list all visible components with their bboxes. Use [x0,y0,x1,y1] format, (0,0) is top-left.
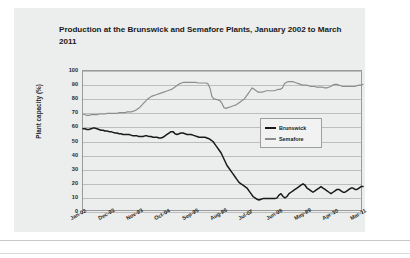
page-divider [0,240,410,241]
legend-item: Semafore [265,133,318,144]
y-axis-tick-label: 80 [56,95,78,101]
legend-swatch-icon [265,138,276,140]
legend-label: Brunswick [279,125,306,131]
legend-label: Semafore [279,136,304,142]
y-axis-tick-label: 40 [56,152,78,158]
y-axis-tick-label: 70 [56,109,78,115]
y-axis-tick-label: 100 [56,67,78,73]
x-axis-tick-labels: Jan-02Dec-02Nov-03Oct-04Sep-05Aug-06Jul-… [82,216,382,240]
y-axis-tick-label: 50 [56,138,78,144]
legend-item: Brunswick [265,122,318,133]
series-line-semafore [83,82,363,116]
y-axis-tick-label: 90 [56,81,78,87]
y-axis-tick-label: 30 [56,166,78,172]
y-axis-tick-label: 10 [56,194,78,200]
chart-panel: Production at the Brunswick and Semafore… [14,8,365,232]
y-axis-tick-label: 20 [56,180,78,186]
chart-title: Production at the Brunswick and Semafore… [59,24,349,47]
chart-legend: BrunswickSemafore [260,118,322,148]
y-axis-tick-labels: 0102030405060708090100 [54,70,78,211]
legend-swatch-icon [265,127,276,129]
page-divider-secondary [0,253,410,254]
y-axis-title: Plant capacity (%) [35,64,42,160]
slide-page: Production at the Brunswick and Semafore… [0,0,410,258]
y-axis-tick-label: 60 [56,123,78,129]
